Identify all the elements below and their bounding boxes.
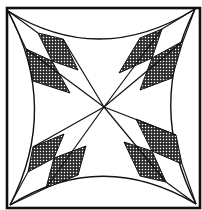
quilt-block-diagram — [0, 0, 202, 210]
right-curve — [171, 9, 196, 204]
spoke-bl-a — [33, 107, 104, 147]
spoke-tl-a — [63, 39, 104, 107]
bottom-curve — [10, 176, 196, 205]
fan-br-2 — [166, 182, 196, 204]
fan-tr-2 — [183, 9, 195, 41]
fan-bl-2 — [10, 188, 46, 205]
top-curve — [8, 9, 195, 39]
fan-tl — [8, 11, 38, 33]
inner-curved-square — [8, 9, 196, 205]
